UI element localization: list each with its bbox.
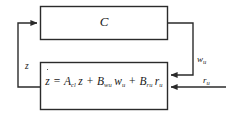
equation-term: Acl z xyxy=(64,75,83,87)
plant-state-equation: z = Acl z + Bwu wu + Bru ru xyxy=(0,76,208,88)
controller-block-label: C xyxy=(0,15,208,28)
equation-term: Bru ru xyxy=(139,75,162,87)
equation-plus: + xyxy=(83,75,97,87)
equation-term: Bwu wu xyxy=(97,75,125,87)
signal-label-wu: wu xyxy=(197,55,206,65)
equation-plus: + xyxy=(125,75,139,87)
signal-label-ru: ru xyxy=(203,76,210,86)
signal-path-wu xyxy=(168,23,193,75)
equation-lhs: z xyxy=(45,76,49,88)
signal-label-z: z xyxy=(25,62,29,72)
equation-equals: = xyxy=(50,75,64,87)
block-diagram: C z = Acl z + Bwu wu + Bru ru z wu ru xyxy=(0,0,228,116)
